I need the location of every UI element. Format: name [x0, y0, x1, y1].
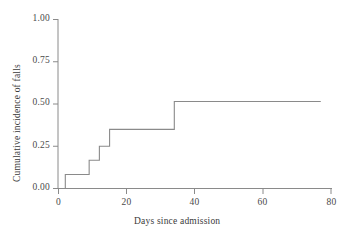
x-axis-title: Days since admission: [134, 216, 220, 226]
chart-figure: 1.00 0.75 0.50 0.25 0.00 0 20 40 60 80 D…: [0, 0, 349, 239]
x-tick-label-60: 60: [248, 197, 277, 207]
x-tick-label-40: 40: [180, 197, 209, 207]
x-axis-ticks: [59, 189, 332, 195]
x-tick-label-80: 80: [317, 197, 346, 207]
y-axis-ticks: [53, 20, 58, 189]
x-tick-label-20: 20: [112, 197, 141, 207]
cumulative-incidence-step-curve: [59, 101, 321, 188]
y-tick-label-1-00: 1.00: [14, 13, 50, 23]
y-tick-label-0-00: 0.00: [14, 182, 50, 192]
x-tick-label-0: 0: [44, 197, 73, 207]
y-axis-title: Cumulative incidence of falls: [12, 64, 22, 182]
